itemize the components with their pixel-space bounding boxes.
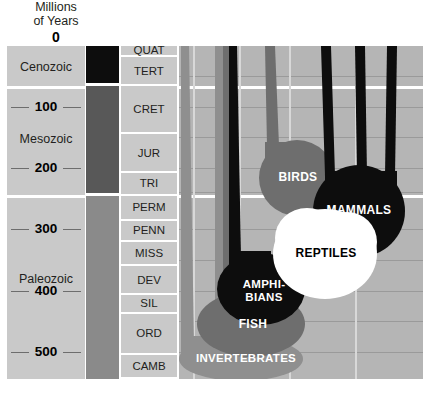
period-cell-ord: ORD — [121, 314, 177, 353]
clade-label-birds: BIRDS — [267, 171, 329, 184]
axis-tick-label: 400 — [7, 284, 85, 298]
period-cell-cret: CRET — [121, 86, 177, 132]
chart-body: Cenozoic Mesozoic Paleozoic 100 200 300 — [7, 46, 423, 379]
period-label: CRET — [121, 103, 177, 115]
period-label: QUAT — [121, 44, 177, 56]
era-label-cenozoic: Cenozoic — [7, 60, 85, 74]
period-cell-tert: TERT — [121, 57, 177, 84]
geologic-time-scale-diagram: Millions of Years 0 Cenozoic Mesozoic Pa… — [0, 0, 429, 405]
period-label: ORD — [121, 327, 177, 339]
period-cell-quat: QUAT — [121, 46, 177, 55]
period-label: SIL — [121, 297, 177, 309]
axis-tick-0: 0 — [0, 29, 112, 45]
era-label-mesozoic: Mesozoic — [7, 132, 85, 146]
axis-tick-label: 100 — [7, 100, 85, 114]
era-divider-cenozoic-mesozoic — [7, 86, 85, 89]
period-label: CAMB — [121, 360, 177, 372]
period-label: JUR — [121, 147, 177, 159]
diversity-plot: BIRDS MAMMALS REPTILES AMPHI- BIANS FISH… — [179, 46, 423, 379]
axis-tick-100: 100 — [7, 100, 85, 114]
period-label: TERT — [121, 65, 177, 77]
clade-label-amphibians: AMPHI- BIANS — [235, 278, 293, 304]
axis-tick-label: 500 — [7, 345, 85, 359]
axis-title-line1: Millions — [0, 0, 112, 14]
era-swatch-paleozoic — [86, 196, 119, 379]
era-divider-mesozoic-paleozoic — [7, 195, 85, 198]
axis-title-line2: of Years — [0, 14, 112, 28]
era-color-bar — [86, 46, 119, 379]
axis-tick-label: 200 — [7, 161, 85, 175]
period-cell-tri: TRI — [121, 173, 177, 194]
period-cell-miss: MISS — [121, 242, 177, 264]
period-column: QUATTERTCRETJURTRIPERMPENNMISSDEVSILORDC… — [121, 46, 177, 379]
period-cell-penn: PENN — [121, 221, 177, 240]
axis-header: Millions of Years 0 — [0, 0, 112, 46]
clade-label-fish: FISH — [229, 318, 277, 331]
clade-label-mammals: MAMMALS — [319, 204, 399, 217]
axis-tick-label: 300 — [7, 222, 85, 236]
axis-tick-400: 400 — [7, 284, 85, 298]
era-swatch-mesozoic — [86, 86, 119, 192]
period-cell-sil: SIL — [121, 295, 177, 311]
axis-tick-500: 500 — [7, 345, 85, 359]
period-label: MISS — [121, 247, 177, 259]
period-cell-jur: JUR — [121, 134, 177, 171]
period-label: DEV — [121, 274, 177, 286]
axis-tick-300: 300 — [7, 222, 85, 236]
clade-label-invertebrates: INVERTEBRATES — [185, 352, 307, 365]
period-cell-dev: DEV — [121, 266, 177, 293]
clade-label-reptiles: REPTILES — [285, 247, 367, 260]
era-scale-column: Cenozoic Mesozoic Paleozoic 100 200 300 — [7, 46, 85, 379]
axis-tick-200: 200 — [7, 161, 85, 175]
era-swatch-cenozoic — [86, 46, 119, 83]
period-label: PENN — [121, 224, 177, 236]
period-cell-perm: PERM — [121, 196, 177, 219]
period-cell-camb: CAMB — [121, 355, 177, 377]
period-label: PERM — [121, 201, 177, 213]
period-label: TRI — [121, 177, 177, 189]
